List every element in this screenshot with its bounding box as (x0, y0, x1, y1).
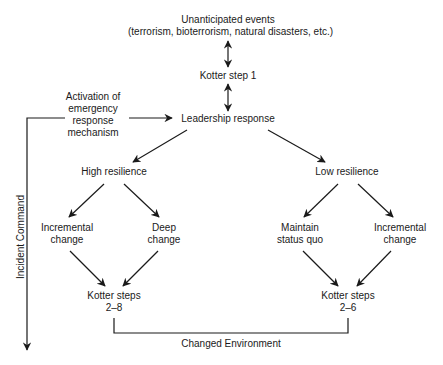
edge-leadership-high (133, 130, 187, 162)
node-kotter-step-1: Kotter step 1 (178, 70, 278, 82)
node-line: Kotter steps (308, 290, 388, 302)
changed-environment-label: Changed Environment (171, 338, 291, 350)
node-line: mechanism (58, 127, 128, 139)
node-line: Maintain (260, 222, 340, 234)
edge-high-deep (124, 184, 159, 217)
node-label: Kotter step 1 (200, 70, 257, 81)
node-line: Kotter steps (74, 290, 154, 302)
edge-low-incremental (358, 184, 393, 217)
node-line: 2–8 (74, 302, 154, 314)
changed-environment-bracket (114, 318, 348, 333)
node-high-resilience: High resilience (64, 166, 164, 178)
edge-maintain-kotter26 (303, 251, 338, 286)
edge-deep-kotter28 (123, 251, 158, 286)
node-line: Unanticipated events (128, 14, 328, 26)
node-line: change (27, 234, 107, 246)
node-line: emergency (58, 103, 128, 115)
node-line: Incremental (360, 222, 440, 234)
node-line: (terrorism, bioterrorism, natural disast… (128, 26, 328, 38)
side-label: Incident Command (15, 195, 26, 279)
node-low-resilience: Low resilience (297, 166, 397, 178)
node-line: Deep (134, 222, 194, 234)
bracket-label: Changed Environment (181, 338, 281, 349)
node-line: Incremental (27, 222, 107, 234)
node-line: change (134, 234, 194, 246)
node-incremental-change-right: Incremental change (360, 222, 440, 246)
node-kotter-steps-2-8: Kotter steps 2–8 (74, 290, 154, 314)
node-incremental-change-left: Incremental change (27, 222, 107, 246)
node-unanticipated-events: Unanticipated events (terrorism, bioterr… (128, 14, 328, 38)
node-line: response (58, 115, 128, 127)
node-activation: Activation of emergency response mechani… (58, 91, 128, 139)
edge-high-incremental (69, 184, 104, 217)
node-kotter-steps-2-6: Kotter steps 2–6 (308, 290, 388, 314)
edge-leadership-low (268, 130, 325, 162)
node-leadership-response: Leadership response (168, 113, 288, 125)
edge-incremental-kotter28 (70, 251, 105, 286)
node-label: Leadership response (181, 113, 274, 124)
node-label: High resilience (81, 166, 147, 177)
node-line: 2–6 (308, 302, 388, 314)
node-deep-change: Deep change (134, 222, 194, 246)
edge-low-maintain (304, 184, 338, 217)
node-line: status quo (260, 234, 340, 246)
node-maintain-status-quo: Maintain status quo (260, 222, 340, 246)
incident-command-label: Incident Command (15, 187, 27, 287)
node-line: Activation of (58, 91, 128, 103)
node-line: change (360, 234, 440, 246)
node-label: Low resilience (315, 166, 378, 177)
edge-incremental-kotter26 (357, 251, 391, 286)
